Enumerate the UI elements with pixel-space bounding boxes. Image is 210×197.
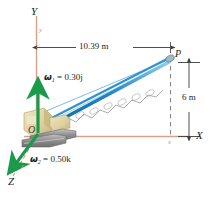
- horizontal-dimension-label: 10.39 m: [79, 42, 109, 51]
- omega1-equals: =: [57, 72, 62, 82]
- point-p-label: P: [175, 49, 181, 59]
- omega2-label: ω2 = 0.50k: [30, 155, 71, 165]
- omega2-equals: =: [43, 154, 48, 164]
- z-axis-upper-label: z: [21, 163, 24, 170]
- figure-canvas: Y y X x Z z O P 10.39 m 6 m ω1 = 0.30j ω…: [0, 0, 210, 197]
- crane-diagram-svg: [0, 0, 210, 197]
- boom-upper-chord: [36, 59, 168, 127]
- omega1-value: 0.30j: [64, 72, 82, 82]
- omega1-label: ω1 = 0.30j: [44, 73, 83, 83]
- omega2-subscript: 2: [38, 159, 41, 165]
- omega1-symbol: ω: [44, 72, 52, 82]
- y-axis-lower-label: y: [39, 27, 42, 34]
- crane-window: [27, 116, 36, 124]
- omega2-value: 0.50k: [50, 154, 70, 164]
- crane-cables: [39, 60, 168, 126]
- y-axis-label: Y: [31, 6, 37, 17]
- x-axis-lower-label: x: [168, 139, 171, 146]
- x-axis-label: X: [196, 130, 203, 141]
- z-axis-label: Z: [8, 176, 14, 187]
- omega2-symbol: ω: [30, 154, 38, 164]
- crane-counterweight: [50, 115, 70, 131]
- origin-label: O: [28, 125, 35, 135]
- omega1-subscript: 1: [52, 77, 55, 83]
- vertical-dimension-label: 6 m: [182, 93, 196, 102]
